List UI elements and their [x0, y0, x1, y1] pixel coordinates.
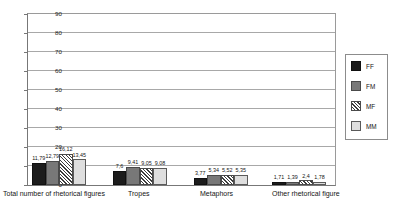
bar-ff-0	[32, 163, 46, 185]
y-axis-tick-mark	[24, 14, 27, 15]
y-axis-tick-mark	[24, 71, 27, 72]
x-axis-category-label: Metaphors	[200, 190, 233, 198]
bar-ff-2	[194, 178, 208, 185]
legend-item-ff[interactable]: FF	[351, 61, 385, 74]
x-axis-category-label: Tropes	[128, 190, 150, 198]
bar-mm-0	[73, 159, 87, 185]
y-axis-tick-mark	[24, 109, 27, 110]
y-axis-tick-mark	[24, 90, 27, 91]
x-axis-category-label: Total number of rhetorical figures	[3, 190, 105, 198]
y-axis-tick-mark	[24, 147, 27, 148]
legend-swatch-icon	[351, 121, 361, 131]
y-axis-tick-mark	[24, 185, 27, 186]
bar-mf-2	[221, 175, 235, 185]
bar-mf-0	[59, 154, 73, 185]
bar-fm-2	[207, 175, 221, 185]
y-axis-tick-mark	[24, 128, 27, 129]
legend-item-mf[interactable]: MF	[351, 101, 385, 114]
bar-value-label: 13,45	[69, 153, 91, 158]
bar-mm-1	[153, 168, 167, 185]
legend-label: MM	[366, 123, 377, 130]
bar-mm-3	[313, 182, 327, 185]
bar-value-label: 9,08	[149, 161, 171, 166]
y-axis-tick-mark	[24, 166, 27, 167]
bar-ff-1	[113, 171, 127, 185]
bar-group: 7,69,419,059,08	[113, 14, 167, 185]
legend-label: FM	[366, 83, 375, 90]
legend-swatch-icon	[351, 101, 361, 111]
bar-mf-1	[140, 168, 154, 185]
bar-value-label: 1,78	[309, 175, 331, 180]
x-axis-category-label: Other rhetorical figure	[272, 190, 340, 198]
legend-item-fm[interactable]: FM	[351, 81, 385, 94]
bar-fm-1	[126, 167, 140, 185]
scan-artifact	[30, 0, 72, 5]
legend-label: FF	[366, 63, 374, 70]
bar-fm-3	[286, 182, 300, 185]
bar-group: 3,775,345,525,35	[194, 14, 248, 185]
bar-group: 1,711,392,41,78	[272, 14, 326, 185]
legend-swatch-icon	[351, 61, 361, 71]
bar-fm-0	[46, 161, 60, 185]
legend-label: MF	[366, 103, 375, 110]
bar-mf-3	[299, 180, 313, 185]
legend-swatch-icon	[351, 81, 361, 91]
bar-ff-3	[272, 182, 286, 185]
bar-mm-2	[234, 175, 248, 185]
y-axis-tick-mark	[24, 33, 27, 34]
y-axis-tick-mark	[24, 52, 27, 53]
bar-groups: 11,7912,7916,1213,457,69,419,059,083,775…	[28, 14, 335, 185]
bar-chart: 0102030405060708090 11,7912,7916,1213,45…	[0, 0, 393, 204]
legend-item-mm[interactable]: MM	[351, 121, 385, 134]
legend: FFFMMFMM	[345, 54, 388, 140]
bar-value-label: 5,35	[230, 168, 252, 173]
bar-group: 11,7912,7916,1213,45	[32, 14, 86, 185]
